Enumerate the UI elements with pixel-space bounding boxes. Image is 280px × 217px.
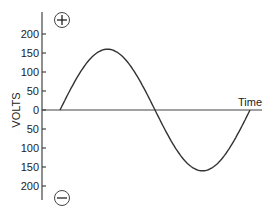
y-tick-label: 200	[21, 180, 39, 192]
y-tick-label: 50	[27, 85, 39, 97]
x-axis-label: Time	[238, 96, 262, 108]
y-tick-label: 50	[27, 123, 39, 135]
y-axis-label: VOLTS	[10, 92, 22, 127]
minus-icon	[55, 191, 70, 206]
y-tick-label: 100	[21, 66, 39, 78]
y-tick-label: 150	[21, 47, 39, 59]
y-tick-label: 150	[21, 161, 39, 173]
y-tick-label: 200	[21, 28, 39, 40]
y-tick-label: 0	[33, 104, 39, 116]
y-ticks: 20015010050050100150200	[21, 28, 46, 192]
y-tick-label: 100	[21, 142, 39, 154]
plus-icon	[55, 13, 70, 28]
voltage-chart: 20015010050050100150200 Time VOLTS	[0, 0, 280, 217]
